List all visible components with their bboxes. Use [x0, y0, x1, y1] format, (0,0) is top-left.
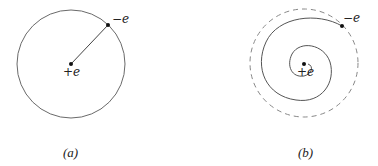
caption-a: (a) [63, 145, 78, 160]
panel-a: +e −e (a) [17, 10, 129, 160]
atom-orbit-figure: +e −e (a) +e −e (b) [0, 0, 378, 166]
panel-b: +e −e (b) [250, 9, 360, 160]
electron-dot [106, 23, 110, 27]
nucleus-label: +e [63, 65, 80, 79]
spiral-path [261, 18, 342, 100]
nucleus-label: +e [297, 65, 314, 79]
caption-b: (b) [298, 145, 313, 160]
electron-label: −e [112, 12, 129, 26]
radius-line [71, 25, 108, 64]
electron-label: −e [343, 11, 360, 25]
